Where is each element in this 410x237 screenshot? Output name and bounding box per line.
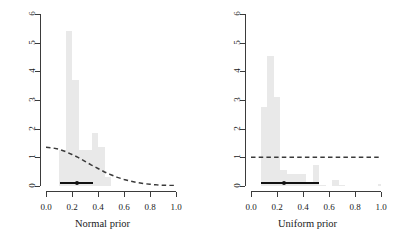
panel-uniform-prior: Density 01234560.00.20.40.60.81.0 Unifor…	[205, 0, 410, 237]
prior-density-path	[46, 147, 176, 185]
y-axis-tick-label: 6	[215, 9, 239, 18]
y-axis-tick-label: 0	[215, 181, 239, 190]
credible-interval-point	[282, 181, 286, 185]
x-axis-title-left: Normal prior	[0, 218, 205, 229]
x-axis-tick	[355, 192, 356, 197]
x-axis-tick	[124, 192, 125, 197]
plot-box-left: 01234560.00.20.40.60.81.0	[46, 14, 176, 186]
y-axis-tick-label: 2	[215, 124, 239, 133]
x-axis-tick	[72, 192, 73, 197]
x-axis-line-right	[251, 191, 381, 192]
credible-interval-bar	[261, 182, 318, 184]
x-axis-tick-label: 1.0	[361, 203, 401, 212]
y-axis-tick-label: 3	[215, 95, 239, 104]
y-axis-tick-label: 2	[10, 124, 34, 133]
x-axis-line-left	[46, 191, 176, 192]
plot-box-right: 01234560.00.20.40.60.81.0	[251, 14, 381, 186]
y-axis-tick-label: 4	[10, 66, 34, 75]
y-axis-tick-label: 3	[10, 95, 34, 104]
x-axis-tick	[98, 192, 99, 197]
y-axis-tick-label: 1	[215, 152, 239, 161]
x-axis-tick	[381, 192, 382, 197]
density-histogram-figure: Density 01234560.00.20.40.60.81.0 Normal…	[0, 0, 410, 237]
x-axis-title-right: Uniform prior	[205, 218, 410, 229]
y-axis-tick-label: 5	[10, 38, 34, 47]
x-axis-tick	[176, 192, 177, 197]
y-axis-line-left	[40, 14, 41, 186]
prior-density-curve	[46, 14, 176, 186]
y-axis-tick-label: 5	[215, 38, 239, 47]
y-axis-tick-label: 1	[10, 152, 34, 161]
x-axis-tick	[251, 192, 252, 197]
x-axis-tick	[150, 192, 151, 197]
x-axis-tick	[46, 192, 47, 197]
y-axis-tick-label: 4	[215, 66, 239, 75]
x-axis-tick	[303, 192, 304, 197]
plot-area-right	[251, 14, 381, 186]
y-axis-line-right	[245, 14, 246, 186]
x-axis-tick-label: 1.0	[156, 203, 196, 212]
x-axis-tick	[329, 192, 330, 197]
panel-normal-prior: Density 01234560.00.20.40.60.81.0 Normal…	[0, 0, 205, 237]
y-axis-tick-label: 6	[10, 9, 34, 18]
prior-density-curve	[251, 14, 381, 186]
y-axis-tick-label: 0	[10, 181, 34, 190]
x-axis-tick	[277, 192, 278, 197]
plot-area-left	[46, 14, 176, 186]
